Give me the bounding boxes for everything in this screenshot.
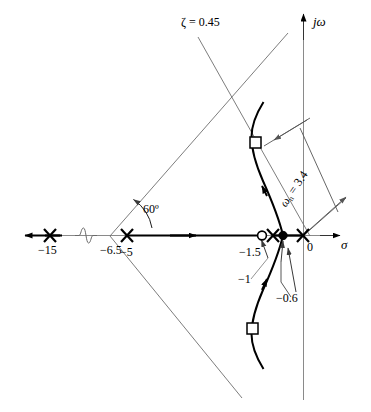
damping-ratio-lines bbox=[110, 33, 310, 398]
imaginary-axis-label: jω bbox=[313, 15, 326, 28]
real-axis-label: σ bbox=[341, 238, 347, 251]
damping-ratio-label: ζ = 0.45 bbox=[181, 16, 220, 28]
marker-zero-minus-1p5[interactable] bbox=[258, 231, 267, 240]
tick-label-minus-1: −1 bbox=[238, 273, 251, 285]
root-locus-plot bbox=[0, 0, 371, 412]
origin-label: 0 bbox=[307, 241, 313, 253]
tick-label-minus-1p5: −1.5 bbox=[239, 246, 261, 258]
root-locus-figure: ζ = 0.45 jω σ −15 −6.5 −5 −1.5 −1 −0.6 0… bbox=[0, 0, 371, 412]
tick-label-minus-0p6: −0.6 bbox=[276, 292, 298, 304]
marker-design-point-upper[interactable] bbox=[250, 137, 261, 148]
tick-label-minus-5: −5 bbox=[120, 246, 133, 258]
tick-label-minus-6p5: −6.5 bbox=[100, 244, 122, 256]
angle-label: 60º bbox=[143, 203, 159, 215]
marker-design-point-lower[interactable] bbox=[247, 323, 258, 334]
marker-breakaway-minus-0p6[interactable] bbox=[279, 231, 287, 239]
tick-label-minus-15: −15 bbox=[38, 244, 57, 256]
